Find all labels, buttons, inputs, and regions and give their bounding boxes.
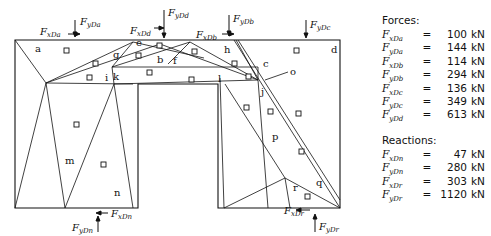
region-label-b: b	[157, 54, 163, 65]
force-label-xDd: FxDd	[129, 25, 152, 38]
force-label-xDr: FxDr	[283, 205, 305, 218]
force-label-yDa: FyDa	[79, 16, 101, 29]
reactions-heading: Reactions:	[382, 134, 491, 146]
force-label-xDa: FxDa	[39, 26, 61, 39]
region-label-g: g	[113, 49, 120, 60]
value: 280	[434, 161, 467, 173]
value: 1120	[434, 188, 467, 200]
region-label-j: j	[260, 86, 264, 97]
unit: kN	[471, 188, 485, 200]
forces-list: FxDa=100kNFyDa=144kNFxDb=114kNFyDb=294kN…	[382, 28, 491, 122]
force-labels: FxDaFyDaFxDdFyDdFxDbFyDbFyDcFxDnFyDnFxDr…	[39, 7, 340, 235]
force-row-xDb: FxDb=114kN	[382, 55, 491, 68]
equals: =	[420, 188, 434, 200]
strut-and-tie-diagram: abcdefghijklmnopqr FxDaFyDaFxDdFyDdFxDbF…	[0, 0, 345, 236]
forces-heading: Forces:	[382, 14, 491, 26]
unit: kN	[471, 82, 485, 94]
force-label-yDn: FyDn	[71, 222, 94, 235]
region-label-n: n	[114, 187, 121, 198]
force-row-xDc: FxDc=136kN	[382, 82, 491, 95]
region-label-e: e	[136, 37, 142, 48]
force-row-yDb: FyDb=294kN	[382, 68, 491, 81]
region-label-m: m	[65, 155, 75, 166]
node-markers	[64, 43, 310, 199]
unit: kN	[471, 148, 485, 160]
unit: kN	[471, 108, 485, 120]
reaction-row-xDr: FxDr=303kN	[382, 175, 491, 188]
force-label-yDr: FyDr	[318, 221, 340, 234]
value: 114	[434, 55, 467, 67]
equals: =	[420, 175, 434, 187]
region-label-k: k	[113, 71, 120, 82]
force-label-xDn: FxDn	[110, 208, 133, 221]
region-label-o: o	[290, 66, 296, 77]
equals: =	[420, 95, 434, 107]
reactions-list: FxDn=47kNFyDn=280kNFxDr=303kNFyDr=1120kN	[382, 148, 491, 202]
region-label-p: p	[272, 131, 278, 142]
equals: =	[420, 41, 434, 53]
unit: kN	[471, 68, 485, 80]
value: 136	[434, 82, 467, 94]
region-labels: abcdefghijklmnopqr	[35, 37, 338, 198]
unit: kN	[471, 161, 485, 173]
force-label-yDb: FyDb	[232, 13, 255, 26]
value: 613	[434, 108, 467, 120]
equals: =	[420, 148, 434, 160]
force-row-yDa: FyDa=144kN	[382, 41, 491, 54]
results-panel: Forces: FxDa=100kNFyDa=144kNFxDb=114kNFy…	[382, 14, 491, 201]
force-row-yDd: FyDd=613kN	[382, 108, 491, 121]
region-label-r: r	[293, 182, 298, 193]
unit: kN	[471, 95, 485, 107]
equals: =	[420, 108, 434, 120]
value: 349	[434, 95, 467, 107]
region-label-i: i	[105, 72, 108, 83]
force-row-xDa: FxDa=100kN	[382, 28, 491, 41]
equals: =	[420, 161, 434, 173]
region-label-h: h	[224, 44, 231, 55]
force-label-yDd: FyDd	[167, 7, 190, 20]
region-label-c: c	[263, 58, 269, 69]
region-label-l: l	[218, 73, 221, 84]
unit: kN	[471, 175, 485, 187]
value: 294	[434, 68, 467, 80]
symbol: FyDr	[382, 188, 420, 203]
reaction-row-yDr: FyDr=1120kN	[382, 188, 491, 201]
equals: =	[420, 82, 434, 94]
unit: kN	[471, 28, 485, 40]
force-row-yDc: FyDc=349kN	[382, 95, 491, 108]
region-label-q: q	[316, 177, 323, 188]
unit: kN	[471, 41, 485, 53]
reaction-row-yDn: FyDn=280kN	[382, 161, 491, 174]
value: 144	[434, 41, 467, 53]
force-label-yDc: FyDc	[309, 19, 331, 32]
equals: =	[420, 55, 434, 67]
region-label-f: f	[173, 55, 178, 66]
value: 100	[434, 28, 467, 40]
value: 47	[434, 148, 467, 160]
reaction-row-xDn: FxDn=47kN	[382, 148, 491, 161]
equals: =	[420, 68, 434, 80]
equals: =	[420, 28, 434, 40]
region-label-d: d	[331, 44, 338, 55]
region-label-a: a	[35, 43, 41, 54]
unit: kN	[471, 55, 485, 67]
value: 303	[434, 175, 467, 187]
symbol: FyDd	[382, 108, 420, 123]
